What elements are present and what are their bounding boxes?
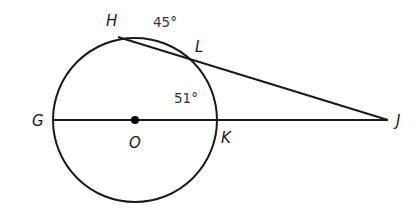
label-l: L	[195, 38, 203, 56]
center-point-o	[131, 116, 139, 124]
label-o: O	[129, 134, 141, 152]
label-k: K	[221, 129, 232, 147]
arc-hl-measure: 45°	[153, 14, 177, 30]
geometry-diagram: H 45° L 51° G O K J	[0, 0, 418, 213]
label-g: G	[32, 112, 44, 130]
secant-hj	[118, 37, 388, 120]
arc-lk-measure: 51°	[174, 90, 198, 106]
label-j: J	[393, 112, 400, 130]
label-h: H	[106, 12, 117, 30]
